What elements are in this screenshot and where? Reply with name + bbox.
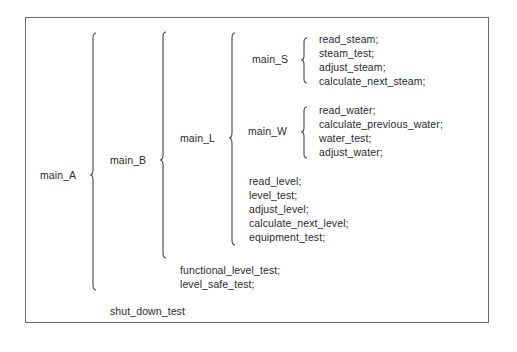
leaf-read-water: read_water; <box>319 104 376 117</box>
brace-main-b <box>160 32 166 258</box>
leaf-level-safe-test: level_safe_test; <box>180 278 255 291</box>
leaf-shut-down-test: shut_down_test <box>110 305 185 318</box>
node-main-b: main_B <box>110 154 146 167</box>
brace-main-s <box>301 38 307 83</box>
node-main-a: main_A <box>40 169 76 182</box>
leaf-read-level: read_level; <box>249 175 301 188</box>
leaf-functional-level-test: functional_level_test; <box>180 264 280 277</box>
leaf-steam-test: steam_test; <box>319 47 374 60</box>
leaf-adjust-steam: adjust_steam; <box>319 61 386 74</box>
leaf-calculate-next-steam: calculate_next_steam; <box>319 75 426 88</box>
node-main-l: main_L <box>180 132 215 145</box>
leaf-adjust-level: adjust_level; <box>249 203 309 216</box>
brace-main-a <box>90 33 96 290</box>
leaf-equipment-test: equipment_test; <box>249 231 325 244</box>
leaf-adjust-water: adjust_water; <box>319 146 383 159</box>
leaf-level-test: level_test; <box>249 189 297 202</box>
node-main-s: main_S <box>252 53 288 66</box>
leaf-water-test: water_test; <box>319 132 371 145</box>
leaf-calculate-previous-water: calculate_previous_water; <box>319 118 443 131</box>
leaf-read-steam: read_steam; <box>319 33 378 46</box>
leaf-calculate-next-level: calculate_next_level; <box>249 217 349 230</box>
node-main-w: main_W <box>248 125 287 138</box>
brace-main-w <box>301 107 307 158</box>
brace-main-l <box>229 33 235 245</box>
